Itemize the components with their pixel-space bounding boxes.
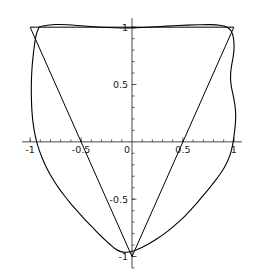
axes-group (22, 18, 242, 268)
x-tick-label: -1 (25, 144, 34, 155)
plot-figure: -1-0.500.51 -1-0.50.51 (0, 0, 262, 279)
plot-canvas: -1-0.500.51 -1-0.50.51 (0, 0, 262, 279)
y-tick-label: 0.5 (113, 79, 128, 90)
y-tick-label: -0.5 (109, 194, 128, 205)
x-tick-label: 0 (124, 144, 130, 155)
x-tick-label: -0.5 (72, 144, 91, 155)
x-axis-tick-labels: -1-0.500.51 (25, 144, 236, 155)
series-fourier-approximation (31, 25, 235, 253)
